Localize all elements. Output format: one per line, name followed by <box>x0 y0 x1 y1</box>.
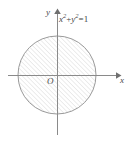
math-figure: y x O x2+y2=1 <box>0 0 130 141</box>
x-axis-label: x <box>120 76 124 85</box>
equation-radius-value: 1 <box>84 14 89 24</box>
y-axis-label: y <box>46 8 50 17</box>
circle-equation-label: x2+y2=1 <box>59 13 88 24</box>
origin-label: O <box>47 77 54 86</box>
